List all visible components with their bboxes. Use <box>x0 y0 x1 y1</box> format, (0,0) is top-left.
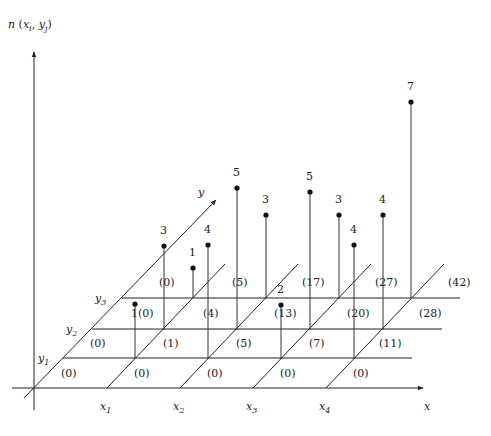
y-axis <box>24 200 216 398</box>
stem-dot <box>190 265 195 270</box>
svg-text:(11): (11) <box>379 337 402 350</box>
stem: 4 <box>379 193 386 330</box>
stem-value-label: 3 <box>262 193 269 206</box>
stem: 1 <box>189 246 196 298</box>
n-axis-label: n (xi, yj) <box>8 18 52 33</box>
svg-text:(5): (5) <box>236 337 252 350</box>
stem-value-label: 4 <box>379 193 386 206</box>
svg-text:(17): (17) <box>302 276 325 289</box>
stem-value-label: 5 <box>306 170 313 183</box>
stem-dot <box>336 212 341 217</box>
stem-dot <box>351 242 356 247</box>
stem-dot <box>380 212 385 217</box>
stem: 4 <box>204 223 211 359</box>
svg-text:(5): (5) <box>232 276 248 289</box>
stem-value-label: 4 <box>350 223 357 236</box>
stem-value-label: 1 <box>189 246 196 259</box>
x-tick-labels: x1 x2 x3 x4 <box>100 400 330 415</box>
x-axis-label: x <box>424 400 431 413</box>
svg-text:(0): (0) <box>353 367 369 380</box>
stem-dot <box>263 212 268 217</box>
svg-text:(28): (28) <box>419 307 442 320</box>
stem-dot <box>278 302 283 307</box>
stem-value-label: 2 <box>277 283 284 296</box>
svg-text:(1): (1) <box>163 337 179 350</box>
stem-value-label: 4 <box>204 223 211 236</box>
svg-text:(42): (42) <box>448 276 471 289</box>
stem-dot <box>408 99 413 104</box>
stem-dot <box>132 301 137 306</box>
cell-labels-row-3: (0) (5) (17) (27) (42) <box>159 276 471 289</box>
svg-text:(20): (20) <box>347 307 370 320</box>
stem: 3 <box>335 193 342 298</box>
svg-text:(0): (0) <box>280 367 296 380</box>
stem-value-label: 3 <box>160 224 167 237</box>
svg-text:x3: x3 <box>246 400 257 415</box>
svg-text:x2: x2 <box>173 400 184 415</box>
stem: 3 <box>262 193 269 298</box>
stem-dot <box>234 185 239 190</box>
svg-text:y2: y2 <box>65 323 77 338</box>
svg-text:(0): (0) <box>207 367 223 380</box>
stem: 2 <box>277 283 284 359</box>
stem: 5 <box>233 166 240 330</box>
svg-text:(27): (27) <box>375 276 398 289</box>
y-axis-label: y <box>197 186 205 199</box>
svg-text:(0): (0) <box>159 276 175 289</box>
cell-labels-row-1: (0) (1) (5) (7) (11) <box>90 337 402 350</box>
stem-value-label: 7 <box>407 80 414 93</box>
stem-dot <box>307 189 312 194</box>
svg-text:(0): (0) <box>134 367 150 380</box>
svg-text:(13): (13) <box>274 307 297 320</box>
stem-value-label: 5 <box>233 166 240 179</box>
cell-labels-row-0: (0) (0) (0) (0) (0) <box>61 367 369 380</box>
stem-value-label: 3 <box>335 193 342 206</box>
svg-text:(7): (7) <box>309 337 325 350</box>
stem: 7 <box>407 80 414 298</box>
svg-text:x4: x4 <box>319 400 330 415</box>
svg-text:(0): (0) <box>90 337 106 350</box>
svg-text:(0): (0) <box>61 367 77 380</box>
svg-text:y3: y3 <box>94 292 106 307</box>
svg-text:1(0): 1(0) <box>131 307 154 320</box>
histogram-3d-diagram: n (xi, yj) x y y1 y2 y3 x1 x2 x3 x4 (0) … <box>0 0 491 436</box>
stem: 4 <box>350 223 357 359</box>
stem: 5 <box>306 170 313 330</box>
stem-dot <box>161 243 166 248</box>
stem-dot <box>205 242 210 247</box>
svg-text:y1: y1 <box>37 352 49 367</box>
svg-text:x1: x1 <box>100 400 111 415</box>
svg-text:(4): (4) <box>203 307 219 320</box>
